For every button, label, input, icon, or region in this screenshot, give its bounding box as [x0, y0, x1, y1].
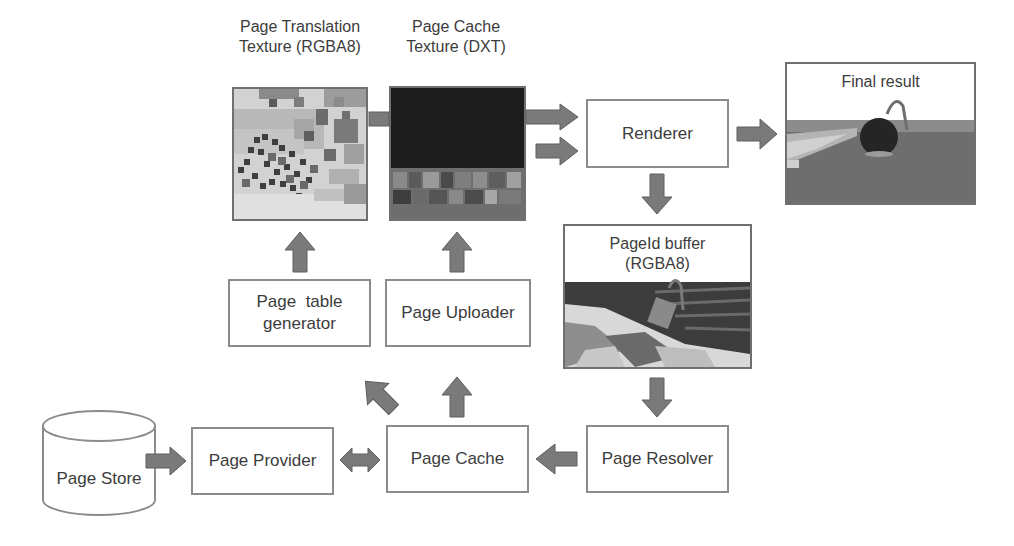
arrow-up-icon — [442, 377, 472, 417]
arrow-right-icon — [146, 447, 186, 475]
arrow-up-icon — [285, 232, 315, 272]
arrow-down-icon — [642, 174, 672, 214]
arrow-right-icon — [526, 104, 578, 130]
arrow-right-icon — [737, 119, 777, 149]
arrow-bidirectional-icon — [340, 448, 380, 472]
arrow-up-left-icon — [355, 371, 404, 420]
arrow-up-icon — [442, 232, 472, 272]
arrow-right-icon — [536, 137, 578, 165]
arrow-down-icon — [642, 378, 672, 417]
arrow-left-icon — [536, 444, 577, 474]
arrows-layer: .ar{fill:#7a7a7a;stroke:#5e5e5e;stroke-w… — [0, 0, 1014, 546]
translation-to-renderer-connector — [369, 112, 389, 126]
